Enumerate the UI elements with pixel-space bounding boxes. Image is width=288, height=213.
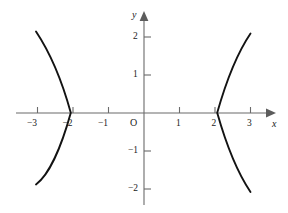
x-axis-label: x xyxy=(272,119,276,129)
x-tick-label--2: −2 xyxy=(63,119,73,129)
x-tick-label-3: 3 xyxy=(247,119,252,129)
y-tick-label-1: 1 xyxy=(133,70,138,80)
x-tick-label--1: −1 xyxy=(98,119,108,129)
x-axis xyxy=(16,109,276,118)
coordinate-plane-svg xyxy=(0,0,288,213)
y-axis-label: y xyxy=(132,10,136,20)
hyperbola-figure: −3 −2 −1 1 2 3 2 1 −1 −2 O x y xyxy=(0,0,288,213)
y-tick-label--2: −2 xyxy=(128,184,138,194)
x-axis-arrow-icon xyxy=(266,109,276,118)
hyperbola-left-branch xyxy=(36,32,71,185)
x-tick-label-2: 2 xyxy=(212,119,217,129)
origin-label: O xyxy=(130,118,137,128)
x-tick-label--3: −3 xyxy=(27,119,37,129)
x-tick-label-1: 1 xyxy=(176,119,181,129)
y-tick-label--1: −1 xyxy=(128,146,138,156)
y-tick-label-2: 2 xyxy=(133,32,138,42)
y-axis-arrow-icon xyxy=(140,11,149,21)
y-axis xyxy=(140,11,149,205)
